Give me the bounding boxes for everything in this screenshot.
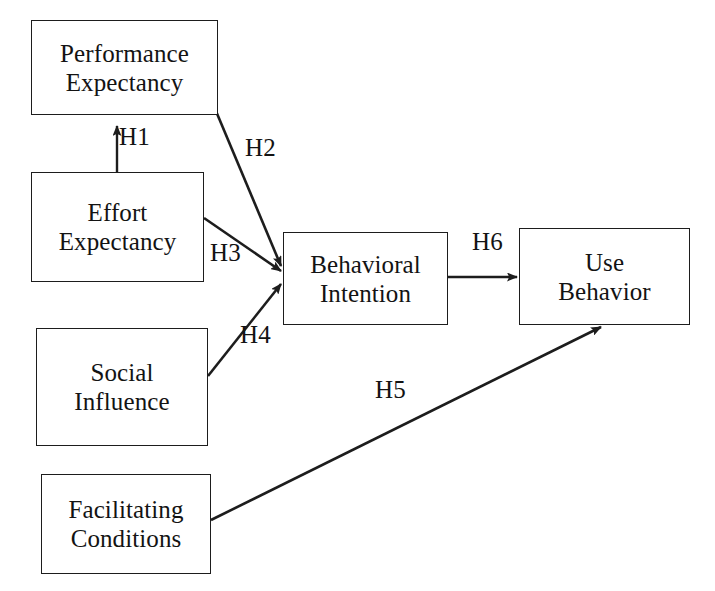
node-use-behavior[interactable]: Use Behavior xyxy=(519,228,690,325)
edge-label-h6: H6 xyxy=(472,229,503,254)
edge-label-h2: H2 xyxy=(245,135,276,160)
node-behavioral-intention-line1: Behavioral xyxy=(310,250,421,279)
node-performance-expectancy-line1: Performance xyxy=(60,39,189,68)
node-facilitating-conditions-line1: Facilitating xyxy=(68,495,183,524)
node-social-influence[interactable]: Social Influence xyxy=(36,328,208,446)
edge-label-h4: H4 xyxy=(240,322,271,347)
node-use-behavior-line1: Use xyxy=(585,248,624,277)
node-social-influence-line2: Influence xyxy=(74,387,169,416)
node-effort-expectancy-line2: Expectancy xyxy=(59,227,177,256)
node-behavioral-intention[interactable]: Behavioral Intention xyxy=(283,232,448,325)
edge-label-h5: H5 xyxy=(375,377,406,402)
edge-label-h1: H1 xyxy=(119,124,150,149)
edge-label-h3: H3 xyxy=(210,240,241,265)
node-effort-expectancy[interactable]: Effort Expectancy xyxy=(31,172,204,282)
node-performance-expectancy[interactable]: Performance Expectancy xyxy=(31,20,218,115)
node-facilitating-conditions[interactable]: Facilitating Conditions xyxy=(41,474,211,574)
diagram-canvas: Performance Expectancy Effort Expectancy… xyxy=(0,0,715,591)
edge-h5-line xyxy=(211,327,601,520)
node-use-behavior-line2: Behavior xyxy=(558,277,650,306)
node-performance-expectancy-line2: Expectancy xyxy=(66,68,184,97)
node-behavioral-intention-line2: Intention xyxy=(320,279,411,308)
node-effort-expectancy-line1: Effort xyxy=(88,198,148,227)
node-facilitating-conditions-line2: Conditions xyxy=(71,524,182,553)
node-social-influence-line1: Social xyxy=(90,358,153,387)
